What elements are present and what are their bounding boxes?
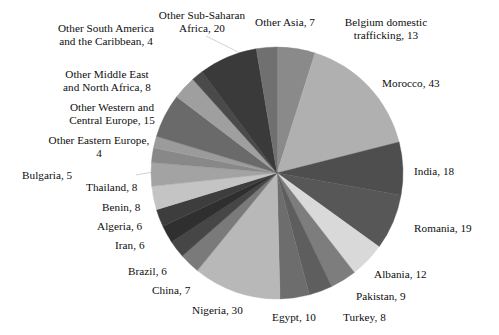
pie-label-bulgaria: Bulgaria, 5: [22, 169, 132, 182]
pie-label-benin: Benin, 8: [102, 201, 192, 214]
pie-label-belgium-domestic-trafficking: Belgium domestictrafficking, 13: [330, 16, 442, 41]
pie-label-india: India, 18: [414, 165, 499, 178]
pie-label-other-western-central-europe: Other Western andCentral Europe, 15: [32, 101, 192, 126]
pie-label-china: China, 7: [152, 284, 237, 297]
pie-label-brazil: Brazil, 6: [128, 265, 213, 278]
pie-label-pakistan: Pakistan, 9: [356, 290, 446, 303]
pie-label-other-mena: Other Middle Eastand North Africa, 8: [22, 68, 192, 93]
pie-label-turkey: Turkey, 8: [343, 311, 428, 324]
pie-label-romania: Romania, 19: [414, 222, 499, 235]
pie-label-other-sub-saharan-africa: Other Sub-SaharanAfrica, 20: [140, 9, 264, 34]
pie-label-iran: Iran, 6: [115, 239, 200, 252]
pie-label-algeria: Algeria, 6: [97, 220, 192, 233]
pie-label-thailand: Thailand, 8: [86, 181, 186, 194]
pie-label-morocco: Morocco, 43: [382, 77, 482, 90]
pie-label-albania: Albania, 12: [374, 268, 469, 281]
pie-chart-figure: Other South Americaand the Caribbean, 4 …: [0, 0, 499, 335]
pie-label-other-eastern-europe: Other Eastern Europe,4: [10, 134, 188, 159]
